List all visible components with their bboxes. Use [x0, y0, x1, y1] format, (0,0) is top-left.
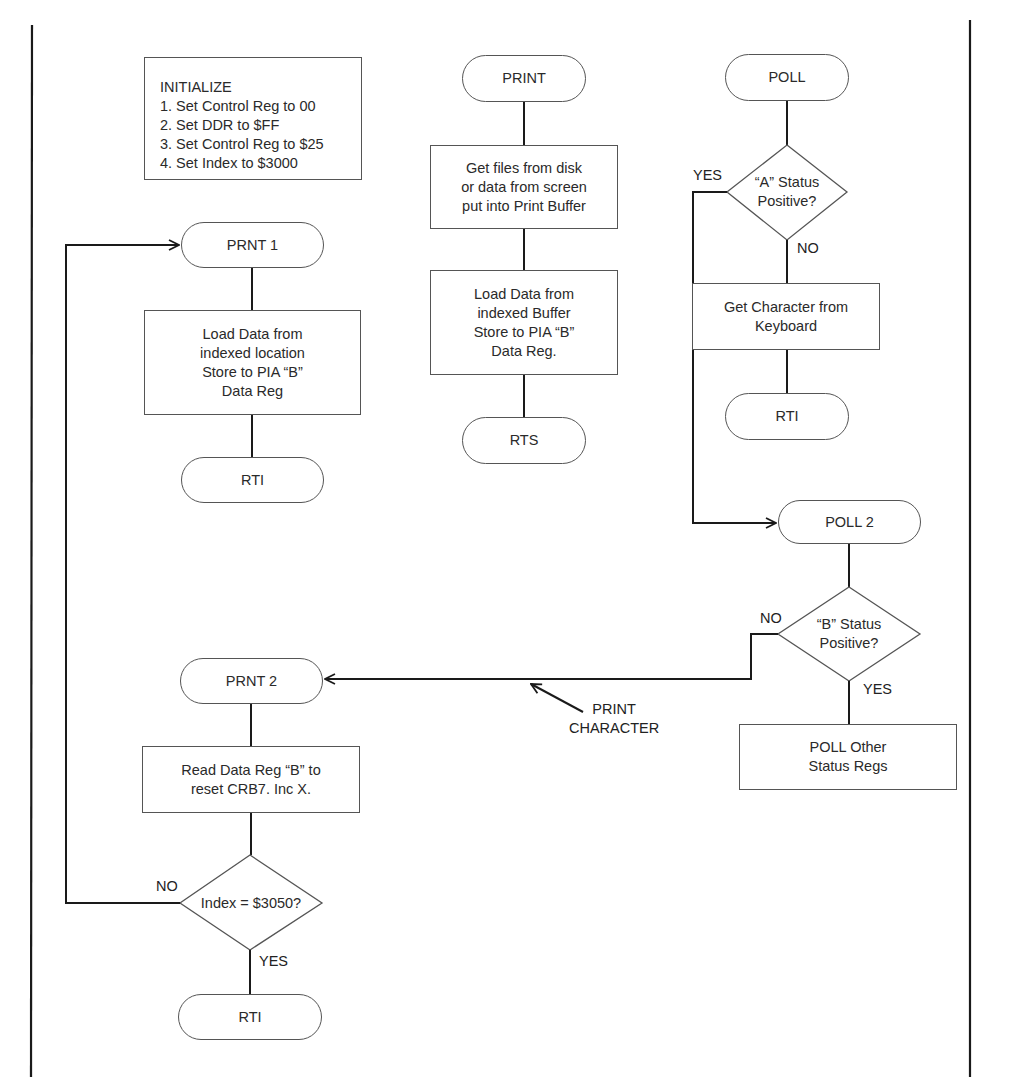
prnt2-no-label: NO: [156, 878, 178, 894]
poll2-step-other-regs-text: POLL Other Status Regs: [809, 738, 888, 776]
poll2-start-terminal: POLL 2: [778, 500, 921, 544]
poll2-start-label: POLL 2: [825, 513, 874, 532]
poll-start-label: POLL: [768, 68, 805, 87]
print-step-load-data-text: Load Data from indexed Buffer Store to P…: [474, 285, 575, 361]
poll-step-get-char: Get Character from Keyboard: [692, 283, 880, 350]
print-step-get-files-text: Get files from disk or data from screen …: [461, 159, 587, 216]
prnt1-end-terminal: RTI: [181, 457, 324, 503]
poll-no-label: NO: [797, 240, 819, 256]
initialize-step-4: 4. Set Index to $3000: [160, 154, 324, 173]
initialize-step-3: 3. Set Control Reg to $25: [160, 135, 324, 154]
print-end-terminal: RTS: [462, 417, 586, 464]
prnt1-step-load-data: Load Data from indexed location Store to…: [144, 310, 361, 415]
initialize-step-2: 2. Set DDR to $FF: [160, 116, 324, 135]
initialize-title: INITIALIZE: [160, 78, 324, 97]
initialize-box: INITIALIZE 1. Set Control Reg to 00 2. S…: [144, 57, 362, 180]
poll2-step-other-regs: POLL Other Status Regs: [739, 724, 957, 790]
prnt2-step-read-data-text: Read Data Reg “B” to reset CRB7. Inc X.: [181, 761, 320, 799]
poll2-yes-label: YES: [863, 681, 892, 697]
initialize-step-1: 1. Set Control Reg to 00: [160, 97, 324, 116]
print-step-load-data: Load Data from indexed Buffer Store to P…: [430, 270, 618, 375]
poll-step-get-char-text: Get Character from Keyboard: [724, 298, 848, 336]
poll-start-terminal: POLL: [725, 54, 849, 101]
prnt2-step-read-data: Read Data Reg “B” to reset CRB7. Inc X.: [142, 746, 360, 813]
prnt1-step-load-data-text: Load Data from indexed location Store to…: [200, 325, 305, 401]
poll-end-terminal: RTI: [725, 393, 849, 440]
print-start-label: PRINT: [502, 69, 546, 88]
poll2-decision-text: “B” Status Positive?: [799, 612, 899, 656]
prnt1-start-label: PRNT 1: [227, 236, 278, 255]
prnt2-end-terminal: RTI: [178, 994, 322, 1040]
poll-end-label: RTI: [775, 407, 798, 426]
prnt1-end-label: RTI: [241, 471, 264, 490]
poll2-no-label: NO: [760, 610, 782, 626]
print-start-terminal: PRINT: [462, 55, 586, 102]
prnt2-start-label: PRNT 2: [226, 672, 277, 691]
print-character-annotation: PRINT CHARACTER: [569, 700, 659, 738]
poll-yes-label: YES: [693, 167, 722, 183]
prnt2-decision-text: Index = $3050?: [185, 893, 317, 913]
prnt2-end-label: RTI: [238, 1008, 261, 1027]
page-border-left: [31, 25, 32, 1077]
prnt2-yes-label: YES: [259, 953, 288, 969]
prnt2-start-terminal: PRNT 2: [180, 658, 323, 704]
print-end-label: RTS: [510, 431, 539, 450]
prnt1-start-terminal: PRNT 1: [181, 222, 324, 268]
print-step-get-files: Get files from disk or data from screen …: [430, 145, 618, 229]
poll-decision-text: “A” Status Positive?: [737, 170, 837, 214]
